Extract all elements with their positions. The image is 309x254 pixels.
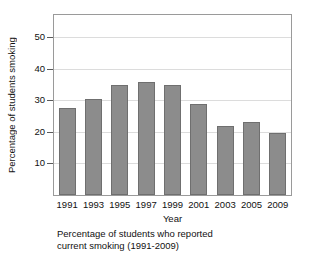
y-axis-tick (47, 69, 53, 70)
bar-chart-figure: Percentage of students smoking 102030405… (0, 0, 309, 254)
bar (85, 99, 102, 195)
bar (217, 126, 234, 195)
y-axis-tick (47, 100, 53, 101)
bar (59, 108, 76, 195)
bar (243, 122, 260, 195)
y-axis-tick-label: 40 (23, 64, 45, 74)
y-axis-tick (47, 132, 53, 133)
y-axis-tick-label: 10 (23, 158, 45, 168)
y-axis-tick (47, 37, 53, 38)
y-axis-tick-label: 20 (23, 127, 45, 137)
y-axis-tick (47, 163, 53, 164)
y-axis-title: Percentage of students smoking (4, 14, 18, 196)
x-axis-title: Year (53, 213, 292, 224)
clipped-text-remnant (38, 0, 228, 5)
bar (164, 85, 181, 195)
bar (138, 82, 155, 195)
caption-line-1: Percentage of students who reported (57, 228, 287, 240)
bar (111, 85, 128, 195)
y-axis-tick-label: 50 (23, 32, 45, 42)
caption-line-2: current smoking (1991-2009) (57, 240, 287, 252)
figure-caption: Percentage of students who reported curr… (57, 228, 287, 251)
bar-series (54, 15, 291, 195)
x-axis-tick-label: 2009 (262, 199, 294, 210)
bar (269, 133, 286, 195)
bar (190, 104, 207, 195)
y-axis-tick-label: 30 (23, 95, 45, 105)
